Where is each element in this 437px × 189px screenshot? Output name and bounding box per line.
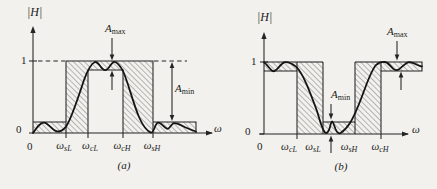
tick-label-zero-y-a: 0 xyxy=(16,124,22,135)
freq-label-omega-sH-a: ωsH xyxy=(144,140,161,153)
figure-canvas xyxy=(0,0,437,189)
tick-label-one-b: 1 xyxy=(251,56,257,67)
freq-label-omega-sH-b: ωsH xyxy=(341,141,358,154)
spec-line xyxy=(88,70,123,133)
tick-label-zero-x-b: 0 xyxy=(257,141,263,152)
hatched-region xyxy=(355,62,381,134)
freq-label-omega-cH-b: ωcH xyxy=(371,141,388,154)
arrowhead xyxy=(170,62,175,68)
a-max-label-a: Amax xyxy=(105,23,126,36)
freq-label-omega-sL-a: ωsL xyxy=(56,140,71,153)
arrowhead xyxy=(30,26,35,33)
freq-label-omega-sL-b: ωsL xyxy=(305,141,320,154)
caption-b: (b) xyxy=(335,161,348,172)
arrowhead xyxy=(395,55,400,61)
arrowhead xyxy=(402,131,409,136)
arrowhead xyxy=(329,114,334,120)
arrowhead xyxy=(261,32,266,39)
arrowhead xyxy=(170,115,175,121)
arrowhead xyxy=(329,136,334,142)
freq-label-omega-cL-b: ωcL xyxy=(281,141,297,154)
y-axis-label-b: |H| xyxy=(257,11,272,23)
a-min-label-b: Amin xyxy=(331,89,350,102)
a-min-label-a: Amin xyxy=(175,83,194,96)
freq-label-omega-cH-a: ωcH xyxy=(113,140,130,153)
tick-label-zero-x-a: 0 xyxy=(27,141,33,152)
tick-label-zero-y-b: 0 xyxy=(245,126,251,137)
y-axis-label-a: |H| xyxy=(27,6,42,18)
panel-a-plot xyxy=(29,26,213,138)
arrowhead xyxy=(110,55,115,61)
x-axis-label-omega-a: ω xyxy=(214,123,222,134)
arrowhead xyxy=(206,130,213,135)
freq-label-omega-cL-a: ωcL xyxy=(82,140,98,153)
caption-a: (a) xyxy=(118,160,131,171)
filter-spec-figure: |H| 1 0 0 ωsL ωcL ωcH ωsH ω Amax Amin (a… xyxy=(0,0,437,189)
tick-label-one-a: 1 xyxy=(21,55,27,66)
arrowhead xyxy=(110,71,115,77)
a-max-label-b: Amax xyxy=(387,26,408,39)
arrowhead xyxy=(399,72,404,78)
x-axis-label-omega-b: ω xyxy=(412,124,420,135)
